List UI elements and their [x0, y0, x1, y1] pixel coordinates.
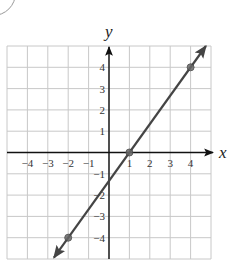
y-tick-label: −3 [93, 210, 105, 222]
y-tick-label: −4 [93, 232, 105, 244]
y-tick-label: 1 [100, 125, 106, 137]
plotted-point [126, 149, 133, 156]
x-tick-label: 4 [188, 157, 194, 169]
x-tick-label: −4 [22, 157, 34, 169]
plotted-point [187, 64, 194, 71]
x-tick-label: −3 [42, 157, 54, 169]
plotted-line [54, 46, 206, 258]
x-axis-label: x [218, 143, 227, 162]
y-tick-label: 3 [100, 83, 106, 95]
y-axis-label: y [103, 22, 113, 41]
x-tick-label: 3 [167, 157, 173, 169]
coordinate-plane: −4−3−2−11234−4−3−2−11234 x y [0, 0, 242, 272]
y-tick-label: −1 [93, 168, 105, 180]
plotted-point [65, 234, 72, 241]
x-tick-label: −1 [83, 157, 95, 169]
x-tick-label: 2 [147, 157, 153, 169]
x-tick-label: −2 [62, 157, 74, 169]
y-tick-label: 2 [100, 104, 106, 116]
x-tick-label: 1 [127, 157, 133, 169]
y-tick-label: 4 [100, 61, 106, 73]
